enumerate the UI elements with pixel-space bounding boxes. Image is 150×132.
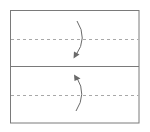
folding-diagram (0, 0, 150, 132)
